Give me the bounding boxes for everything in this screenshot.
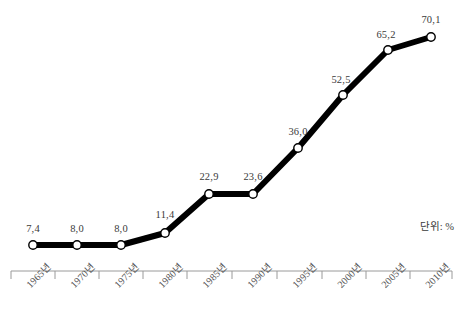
- data-value-label: 8,0: [70, 223, 84, 234]
- data-point-marker: [339, 91, 347, 99]
- data-value-label: 7,4: [26, 223, 40, 234]
- data-point-marker: [205, 190, 213, 198]
- data-point-marker: [73, 241, 81, 249]
- line-chart: 7,48,08,011,422,923,636,052,565,270,1 19…: [0, 0, 462, 327]
- data-point-marker: [249, 190, 257, 198]
- data-value-label: 36,0: [288, 126, 307, 137]
- data-point-marker: [161, 229, 169, 237]
- data-point-marker: [427, 33, 435, 41]
- data-value-label: 23,6: [243, 171, 262, 182]
- data-line: [33, 37, 431, 245]
- data-point-marker: [294, 144, 302, 152]
- data-value-label: 65,2: [376, 29, 395, 40]
- unit-note-label: 단위: %: [420, 218, 454, 233]
- data-value-label: 22,9: [199, 171, 218, 182]
- data-point-marker: [29, 241, 37, 249]
- data-value-label: 11,4: [156, 209, 175, 220]
- data-value-label: 70,1: [421, 14, 440, 25]
- data-value-label: 8,0: [114, 223, 128, 234]
- data-value-label: 52,5: [331, 74, 350, 85]
- data-point-marker: [117, 241, 125, 249]
- data-point-marker: [384, 46, 392, 54]
